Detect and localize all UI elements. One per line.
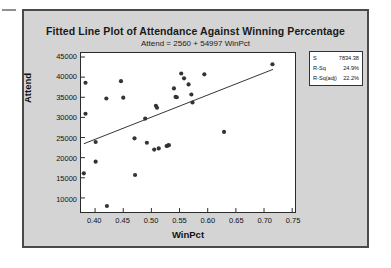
- data-point: [152, 148, 156, 152]
- data-point: [94, 160, 98, 164]
- x-tick-label: 0.45: [115, 216, 130, 225]
- plot-svg: [81, 53, 295, 212]
- data-point: [189, 92, 193, 96]
- data-point: [145, 141, 149, 145]
- x-tick-label: 0.75: [286, 216, 301, 225]
- data-point: [167, 143, 171, 147]
- x-tick-label: 0.50: [144, 216, 159, 225]
- x-axis-title: WinPct: [80, 229, 296, 240]
- data-point: [82, 171, 86, 175]
- y-tick-label: 20000: [56, 153, 77, 162]
- data-point: [104, 96, 108, 100]
- data-point: [132, 136, 136, 140]
- stat-label: R-Sq(adj): [313, 74, 337, 84]
- x-tick-label: 0.60: [201, 216, 216, 225]
- y-tick-label: 45000: [56, 52, 77, 61]
- y-axis-title: Attend: [22, 73, 33, 103]
- chart-figure: Fitted Line Plot of Attendance Against W…: [22, 9, 369, 248]
- data-point: [94, 140, 98, 144]
- statistics-legend-box: S7834.38R-Sq24.9%R-Sq(adj)22.2%: [309, 51, 363, 86]
- data-point: [175, 95, 179, 99]
- data-point: [105, 204, 109, 208]
- stat-label: S: [313, 54, 317, 64]
- stat-value: 24.9%: [343, 64, 359, 74]
- y-tick-label: 30000: [56, 113, 77, 122]
- data-point: [83, 81, 87, 85]
- data-point: [270, 62, 274, 66]
- data-point: [222, 130, 226, 134]
- y-tick-label: 15000: [56, 174, 77, 183]
- stat-value: 7834.38: [339, 54, 359, 64]
- data-point: [157, 146, 161, 150]
- plot-area: [80, 52, 296, 213]
- y-tick-label: 35000: [56, 92, 77, 101]
- chart-title: Fitted Line Plot of Attendance Against W…: [24, 25, 367, 37]
- x-axis-tick-labels: 0.400.450.500.550.600.650.700.75: [80, 216, 296, 228]
- y-axis-tick-labels: 1000015000200002500030000350004000045000: [34, 52, 77, 213]
- fitted-regression-line: [84, 69, 273, 143]
- data-point: [155, 106, 159, 110]
- data-point: [190, 100, 194, 104]
- x-tick-label: 0.70: [257, 216, 272, 225]
- stat-value: 22.2%: [343, 74, 359, 84]
- data-point: [143, 117, 147, 121]
- data-point: [202, 72, 206, 76]
- stats-row: R-Sq24.9%: [313, 64, 359, 74]
- data-point: [83, 112, 87, 116]
- chart-surface: Fitted Line Plot of Attendance Against W…: [24, 11, 367, 246]
- stats-row: R-Sq(adj)22.2%: [313, 74, 359, 84]
- data-point: [182, 76, 186, 80]
- x-tick-label: 0.55: [172, 216, 187, 225]
- data-point: [179, 71, 183, 75]
- stats-row: S7834.38: [313, 54, 359, 64]
- data-point: [133, 173, 137, 177]
- data-point: [121, 96, 125, 100]
- x-tick-label: 0.65: [229, 216, 244, 225]
- y-tick-label: 40000: [56, 72, 77, 81]
- data-point: [172, 86, 176, 90]
- x-tick-label: 0.40: [87, 216, 102, 225]
- stat-label: R-Sq: [313, 64, 326, 74]
- data-point: [119, 79, 123, 83]
- y-tick-label: 10000: [56, 194, 77, 203]
- y-tick-label: 25000: [56, 133, 77, 142]
- stray-dash-mark: [2, 9, 16, 11]
- chart-subtitle-equation: Attend = 2560 + 54997 WinPct: [24, 39, 367, 48]
- data-point: [186, 82, 190, 86]
